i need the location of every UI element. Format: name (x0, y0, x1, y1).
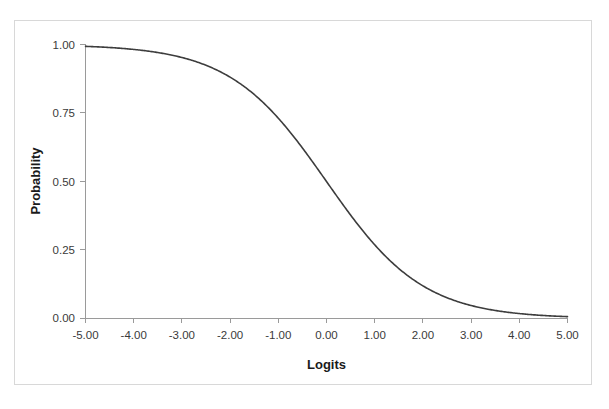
x-tick-label-9: 4.00 (508, 329, 530, 341)
x-tick-label-5: 0.00 (315, 329, 337, 341)
x-tick-label-6: 1.00 (364, 329, 386, 341)
x-tick-label-3: -2.00 (217, 329, 243, 341)
y-tick-label-1: 0.25 (53, 244, 75, 256)
y-axis-title: Probability (28, 147, 43, 215)
x-tick-label-4: -1.00 (265, 329, 291, 341)
x-tick-label-10: 5.00 (556, 329, 578, 341)
logistic-curve-line (86, 46, 568, 316)
x-tick-label-7: 2.00 (412, 329, 434, 341)
y-tick-label-3: 0.75 (53, 107, 75, 119)
x-axis-title: Logits (307, 357, 346, 372)
y-tick-label-2: 0.50 (53, 176, 75, 188)
logistic-curve-plot: 0.00 0.25 0.50 0.75 1.00 -5.00 -4.00 -3.… (0, 0, 609, 409)
y-tick-label-4: 1.00 (53, 39, 75, 51)
chart-figure: 0.00 0.25 0.50 0.75 1.00 -5.00 -4.00 -3.… (0, 0, 609, 409)
x-tick-label-0: -5.00 (72, 329, 98, 341)
x-tick-label-2: -3.00 (169, 329, 195, 341)
y-tick-label-0: 0.00 (53, 312, 75, 324)
x-tick-label-1: -4.00 (121, 329, 147, 341)
y-axis-ticks (80, 45, 85, 319)
x-tick-label-8: 3.00 (460, 329, 482, 341)
